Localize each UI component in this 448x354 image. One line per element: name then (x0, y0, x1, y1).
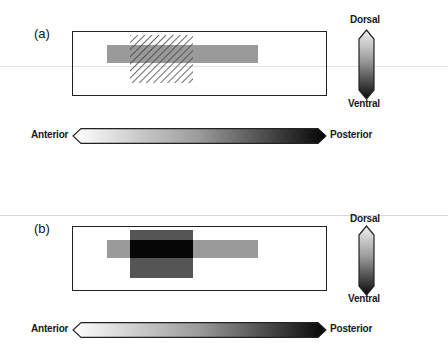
posterior-label: Posterior (330, 323, 372, 334)
region-outline-box (72, 226, 327, 291)
ventral-label: Ventral (348, 98, 380, 109)
ventral-label: Ventral (348, 293, 380, 304)
panel-label-a: (a) (34, 26, 50, 41)
dorsal-label: Dorsal (350, 213, 380, 224)
dorsal-ventral-gradient-arrow (358, 226, 375, 295)
anterior-label: Anterior (31, 323, 68, 334)
hatched-region (130, 35, 193, 83)
dorsal-ventral-gradient-arrow (358, 30, 375, 99)
scan-artifact-line (0, 215, 448, 216)
anterior-label: Anterior (31, 129, 68, 140)
anterior-posterior-gradient-arrow (73, 128, 327, 144)
overlap-region (130, 240, 193, 258)
panel-label-b: (b) (34, 221, 50, 236)
region-outline-box (72, 31, 327, 96)
anterior-posterior-gradient-arrow (73, 322, 327, 338)
posterior-label: Posterior (330, 129, 372, 140)
dorsal-label: Dorsal (350, 14, 380, 25)
